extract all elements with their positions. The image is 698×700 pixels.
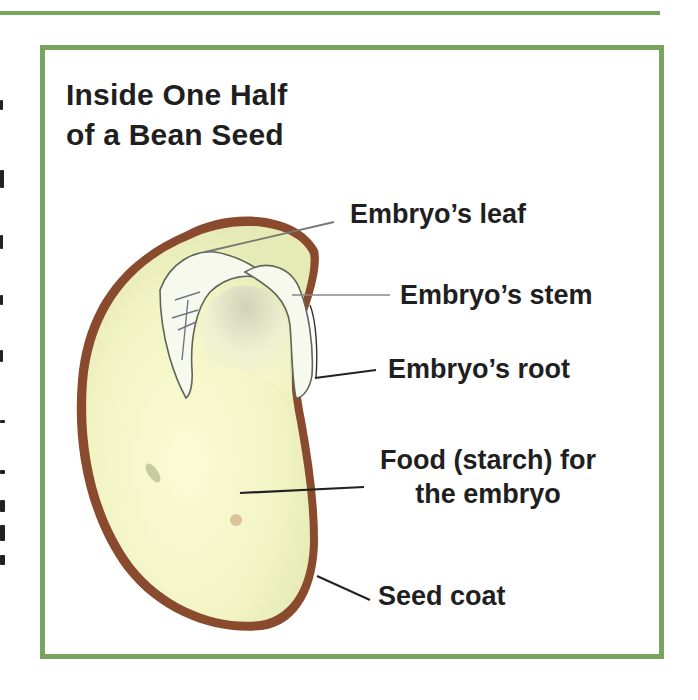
label-food-line-2: the embryo — [356, 477, 620, 511]
seed-spot — [230, 514, 242, 526]
label-embryo-leaf: Embryo’s leaf — [350, 197, 526, 231]
label-food-starch: Food (starch) for the embryo — [356, 443, 620, 511]
label-seed-coat: Seed coat — [378, 579, 506, 613]
diagram-title: Inside One Half of a Bean Seed — [66, 75, 287, 155]
title-line-2: of a Bean Seed — [66, 115, 287, 155]
label-embryo-stem: Embryo’s stem — [400, 278, 593, 312]
label-embryo-root: Embryo’s root — [388, 352, 570, 386]
leader-line-root — [315, 370, 376, 378]
label-food-line-1: Food (starch) for — [356, 443, 620, 477]
title-line-1: Inside One Half — [66, 75, 287, 115]
leader-line-seed-coat — [317, 576, 370, 600]
